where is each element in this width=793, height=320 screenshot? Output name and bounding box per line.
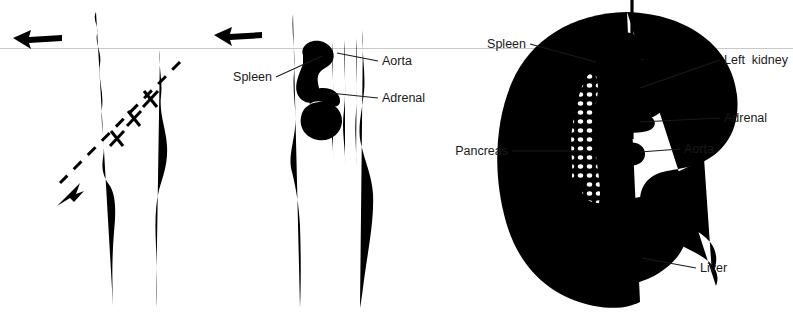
kidney-hilum-middle — [315, 113, 326, 125]
adrenal-outline-right — [601, 112, 655, 134]
label-left-kidney-right: Left kidney — [724, 53, 789, 67]
label-aorta-right: Aorta — [684, 142, 714, 156]
label-adrenal-middle: Adrenal — [382, 91, 425, 105]
label-adrenal-right: Adrenal — [724, 111, 767, 125]
label-aorta-middle: Aorta — [382, 54, 412, 68]
anatomy-figure: Spleen Aorta Adrenal — [0, 0, 793, 320]
label-pancreas-right: Pancreas — [455, 144, 508, 158]
anatomy-figure-canvas: Spleen Aorta Adrenal — [0, 0, 793, 320]
label-spleen-middle: Spleen — [233, 70, 272, 84]
label-liver-right: Liver — [700, 261, 727, 275]
label-spleen-right: Spleen — [487, 37, 526, 51]
